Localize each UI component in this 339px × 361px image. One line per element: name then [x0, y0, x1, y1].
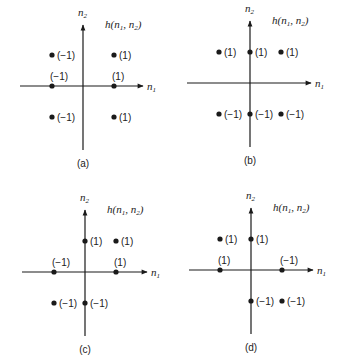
n2-axis-label: n2: [80, 191, 90, 205]
sample-value-label: (−1): [50, 71, 68, 82]
sample-point: [51, 300, 56, 305]
sample-point: [113, 269, 118, 274]
panel-a: n1n2h(n1, n2)(−1)(1)(−1)(1)(−1)(1)(a): [20, 6, 156, 169]
sample-value-label: (−1): [224, 109, 242, 120]
sample-point: [247, 111, 252, 116]
n1-axis-label: n1: [317, 264, 326, 278]
sample-point: [111, 83, 116, 88]
sample-point: [49, 114, 54, 119]
panel-caption: (c): [79, 344, 91, 355]
sample-point: [111, 52, 116, 57]
sample-point: [217, 267, 222, 272]
panel-c: n1n2h(n1, n2)(1)(1)(−1)(1)(−1)(−1)(c): [22, 191, 160, 355]
sample-point: [49, 83, 54, 88]
sample-value-label: (−1): [59, 298, 77, 309]
n1-axis-label: n1: [147, 80, 156, 94]
sample-point: [278, 111, 283, 116]
sample-value-label: (1): [119, 50, 131, 61]
sample-point: [247, 49, 252, 54]
n2-axis-label: n2: [246, 189, 256, 203]
sample-value-label: (1): [121, 236, 133, 247]
sample-point: [113, 238, 118, 243]
panel-title: h(n1, n2): [272, 14, 309, 28]
sample-value-label: (1): [255, 47, 267, 58]
sample-point: [82, 300, 87, 305]
sample-value-label: (1): [225, 234, 237, 245]
sample-value-label: (−1): [286, 109, 304, 120]
panel-b: n1n2h(n1, n2)(1)(1)(1)(−1)(−1)(−1)(b): [187, 2, 324, 166]
sample-value-label: (−1): [280, 255, 298, 266]
sample-point: [279, 267, 284, 272]
sample-value-label: (−1): [256, 296, 274, 307]
sample-point: [51, 269, 56, 274]
sample-value-label: (1): [286, 47, 298, 58]
panel-title: h(n1, n2): [105, 18, 142, 32]
sample-value-label: (1): [218, 255, 230, 266]
sample-point: [217, 236, 222, 241]
panel-title: h(n1, n2): [107, 203, 144, 217]
n1-axis-label: n1: [151, 266, 160, 280]
sample-point: [49, 52, 54, 57]
panel-caption: (a): [77, 158, 89, 169]
sample-point: [216, 111, 221, 116]
sample-value-label: (1): [90, 236, 102, 247]
panel-caption: (b): [244, 155, 256, 166]
sample-value-label: (1): [256, 234, 268, 245]
sample-point: [279, 298, 284, 303]
impulse-response-figure: n1n2h(n1, n2)(−1)(1)(−1)(1)(−1)(1)(a)n1n…: [0, 0, 339, 361]
panel-d: n1n2h(n1, n2)(1)(1)(1)(−1)(−1)(−1)(d): [189, 189, 326, 353]
sample-value-label: (−1): [255, 109, 273, 120]
sample-point: [82, 238, 87, 243]
sample-value-label: (1): [112, 71, 124, 82]
sample-point: [278, 49, 283, 54]
sample-value-label: (1): [114, 257, 126, 268]
n2-axis-label: n2: [245, 2, 255, 16]
sample-value-label: (−1): [57, 50, 75, 61]
sample-point: [216, 49, 221, 54]
sample-value-label: (−1): [287, 296, 305, 307]
sample-point: [248, 298, 253, 303]
panel-caption: (d): [245, 342, 257, 353]
sample-value-label: (−1): [52, 257, 70, 268]
sample-value-label: (1): [119, 112, 131, 123]
panel-title: h(n1, n2): [273, 201, 310, 215]
sample-value-label: (−1): [57, 112, 75, 123]
sample-point: [248, 236, 253, 241]
sample-value-label: (1): [224, 47, 236, 58]
sample-point: [111, 114, 116, 119]
sample-value-label: (−1): [90, 298, 108, 309]
n1-axis-label: n1: [315, 77, 324, 91]
n2-axis-label: n2: [78, 6, 88, 20]
